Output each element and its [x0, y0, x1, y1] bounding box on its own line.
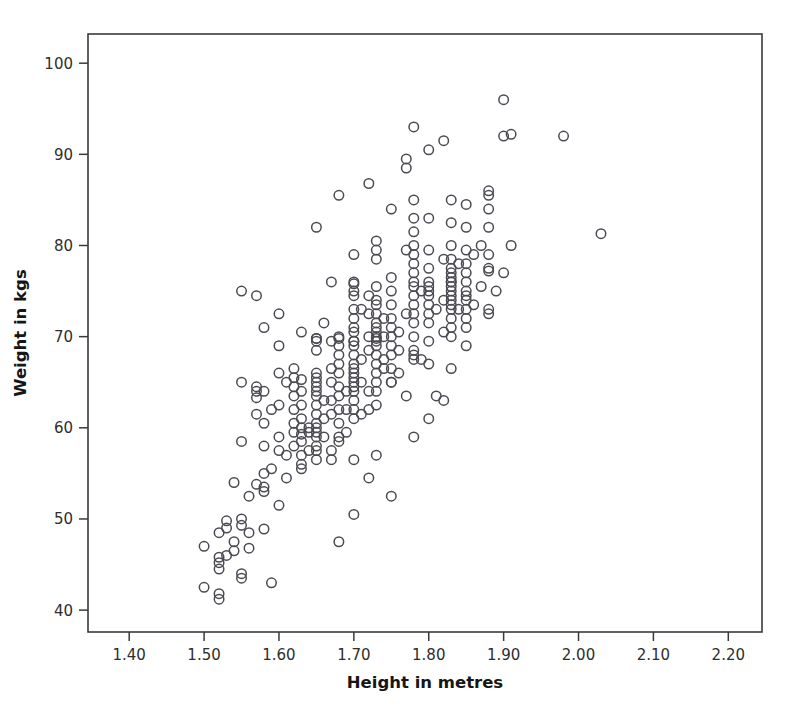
x-axis-ticks: 1.401.501.601.701.801.902.002.102.20	[112, 632, 745, 664]
x-axis-title: Height in metres	[347, 673, 504, 692]
scatter-plot-canvas: 405060708090100 1.401.501.601.701.801.90…	[0, 0, 800, 721]
x-tick-label: 2.10	[637, 646, 670, 664]
y-tick-label: 90	[54, 146, 73, 164]
y-tick-label: 100	[44, 55, 73, 73]
y-axis-ticks: 405060708090100	[44, 55, 88, 620]
x-tick-label: 1.80	[412, 646, 445, 664]
x-tick-label: 1.70	[337, 646, 370, 664]
x-tick-label: 1.50	[187, 646, 220, 664]
y-tick-label: 50	[54, 510, 73, 528]
x-tick-label: 1.40	[112, 646, 145, 664]
y-axis-title: Weight in kgs	[11, 269, 30, 397]
plot-frame	[88, 34, 762, 632]
x-tick-label: 1.60	[262, 646, 295, 664]
x-tick-label: 1.90	[487, 646, 520, 664]
y-tick-label: 70	[54, 328, 73, 346]
y-tick-label: 80	[54, 237, 73, 255]
x-tick-label: 2.00	[562, 646, 595, 664]
y-tick-label: 60	[54, 419, 73, 437]
y-tick-label: 40	[54, 602, 73, 620]
scatter-plot-figure: 405060708090100 1.401.501.601.701.801.90…	[0, 0, 800, 721]
x-tick-label: 2.20	[712, 646, 745, 664]
